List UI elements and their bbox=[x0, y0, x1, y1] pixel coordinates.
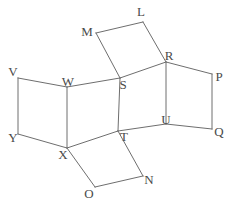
edge-m-l bbox=[96, 22, 143, 33]
vertex-label-t: T bbox=[120, 130, 128, 143]
vertex-label-l: L bbox=[137, 5, 145, 18]
edge-l-r bbox=[143, 22, 166, 62]
vertex-label-y: Y bbox=[8, 131, 17, 144]
vertex-label-q: Q bbox=[214, 125, 223, 138]
edge-q-u bbox=[166, 124, 212, 129]
diagram-canvas: LMRPVWSQUYTXNO bbox=[0, 0, 235, 204]
edge-v-w bbox=[18, 78, 67, 87]
edge-o-n bbox=[95, 176, 143, 187]
vertex-label-p: P bbox=[215, 70, 222, 83]
edge-w-s bbox=[67, 78, 120, 87]
vertex-label-o: O bbox=[84, 187, 93, 200]
wireframe-svg bbox=[0, 0, 235, 204]
vertex-label-u: U bbox=[161, 113, 170, 126]
vertex-label-w: W bbox=[62, 75, 74, 88]
edge-m-s bbox=[96, 33, 120, 78]
vertex-label-x: X bbox=[58, 148, 67, 161]
vertex-label-s: S bbox=[119, 78, 126, 91]
edge-x-t bbox=[67, 131, 118, 148]
vertex-label-v: V bbox=[8, 65, 17, 78]
edge-x-o bbox=[67, 148, 95, 187]
vertex-label-n: N bbox=[144, 173, 153, 186]
edge-s-r bbox=[120, 62, 166, 78]
edge-r-p bbox=[166, 62, 212, 74]
vertex-label-m: M bbox=[81, 25, 93, 38]
vertex-label-r: R bbox=[165, 49, 174, 62]
edge-group bbox=[18, 22, 212, 187]
